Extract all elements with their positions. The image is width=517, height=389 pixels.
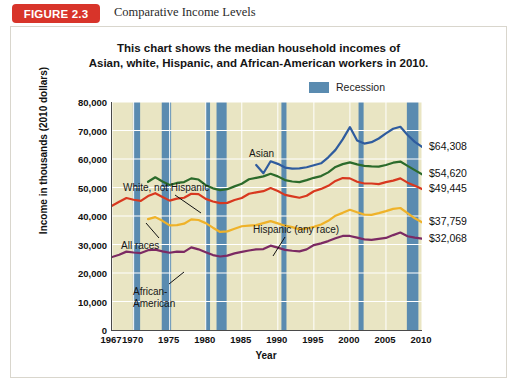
annotation-white-not-hispanic: White, not Hispanic [123,182,209,194]
end-label-white: $54,620 [429,167,467,179]
y-tick-label: 50,000 [55,182,107,193]
end-label-hispanic: $37,759 [429,215,467,227]
y-tick-label: 0 [55,325,107,336]
x-axis-title: Year [111,350,421,361]
end-label-all-races: $49,445 [429,182,467,194]
plot-wrapper: Income in thousands (2010 dollars) 010,0… [11,27,508,379]
annotation-all-races: All races [121,240,159,252]
y-tick-label: 20,000 [55,268,107,279]
end-label-asian: $64,308 [429,140,467,152]
x-tick-label: 1985 [230,334,251,345]
y-tick-label: 30,000 [55,239,107,250]
x-tick-label: 2000 [338,334,359,345]
x-tick-label: 1990 [266,334,287,345]
x-tick-label: 1980 [194,334,215,345]
y-tick-label: 80,000 [55,97,107,108]
y-tick-label: 10,000 [55,296,107,307]
annotation-african-american-line-2: American [133,298,175,309]
y-tick-label: 60,000 [55,154,107,165]
annotation-asian: Asian [249,148,274,160]
x-tick-label: 1970 [122,334,143,345]
y-tick-label: 40,000 [55,211,107,222]
annotation-african-american-line-1: African- [133,286,167,297]
y-axis-title: Income in thousands (2010 dollars) [38,51,49,251]
figure-number-badge: FIGURE 2.3 [12,4,100,23]
x-axis-ticks: 1967197019751980198519901995200020052010 [111,334,421,348]
x-tick-label: 1975 [158,334,179,345]
x-tick-label: 1995 [302,334,323,345]
figure-caption: Comparative Income Levels [114,5,256,20]
y-tick-label: 70,000 [55,125,107,136]
x-tick-label: 2005 [374,334,395,345]
x-tick-label: 1967 [100,334,121,345]
y-axis-ticks: 010,00020,00030,00040,00050,00060,00070,… [51,102,107,330]
annotation-hispanic: Hispanic (any race) [253,224,339,236]
figure-frame: This chart shows the median household in… [10,26,507,378]
end-label-african-american: $32,068 [429,232,467,244]
annotation-african-american: African- American [133,286,175,310]
x-tick-label: 2010 [410,334,431,345]
